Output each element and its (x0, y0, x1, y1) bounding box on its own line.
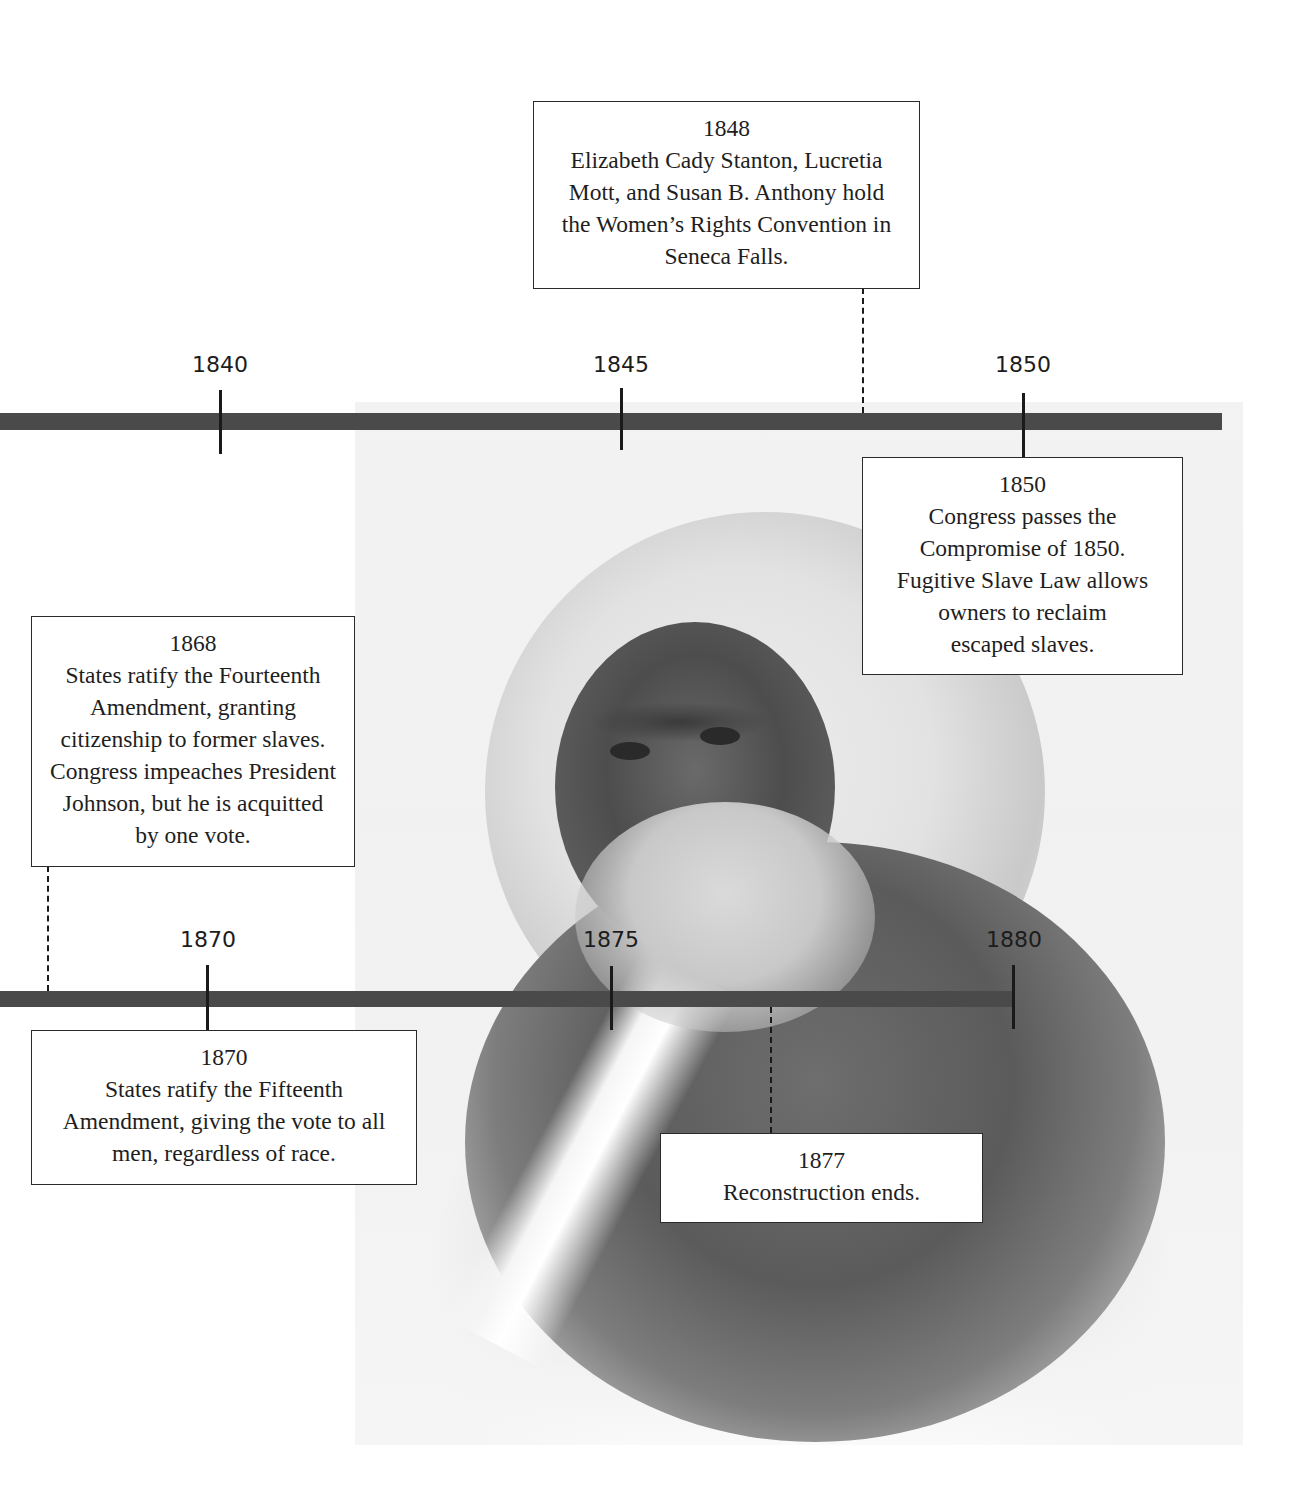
portrait-eye-right (700, 727, 740, 745)
tick-label-1875: 1875 (583, 927, 639, 952)
tick-1880 (1012, 965, 1015, 1029)
event-year: 1848 (542, 112, 911, 144)
tick-label-1870: 1870 (180, 927, 236, 952)
tick-1840 (219, 390, 222, 454)
connector-1848 (862, 288, 864, 413)
tick-label-1880: 1880 (986, 927, 1042, 952)
tick-label-1840: 1840 (192, 352, 248, 377)
tick-1870 (206, 965, 209, 1031)
event-year: 1877 (669, 1144, 974, 1176)
event-box-1850: 1850 Congress passes the Compromise of 1… (862, 457, 1183, 675)
event-year: 1850 (871, 468, 1174, 500)
portrait-brow (590, 702, 770, 742)
tick-label-1850: 1850 (995, 352, 1051, 377)
event-description: Reconstruction ends. (669, 1176, 974, 1208)
event-box-1868: 1868 States ratify the Fourteenth Amendm… (31, 616, 355, 867)
tick-1845 (620, 388, 623, 450)
event-description: Congress passes the Compromise of 1850. … (871, 500, 1174, 660)
connector-1877 (770, 1007, 772, 1133)
timeline-bar-top (0, 413, 1222, 430)
event-year: 1868 (40, 627, 346, 659)
tick-1850 (1022, 393, 1025, 458)
tick-label-1845: 1845 (593, 352, 649, 377)
connector-1868 (47, 866, 49, 991)
timeline-bar-bottom (0, 991, 1013, 1007)
event-box-1848: 1848 Elizabeth Cady Stanton, Lucretia Mo… (533, 101, 920, 289)
event-box-1877: 1877 Reconstruction ends. (660, 1133, 983, 1223)
event-year: 1870 (40, 1041, 408, 1073)
event-description: Elizabeth Cady Stanton, Lucretia Mott, a… (542, 144, 911, 272)
event-box-1870: 1870 States ratify the Fifteenth Amendme… (31, 1030, 417, 1185)
portrait-eye-left (610, 742, 650, 760)
tick-1875 (610, 966, 613, 1030)
event-description: States ratify the Fifteenth Amendment, g… (40, 1073, 408, 1169)
event-description: States ratify the Fourteenth Amendment, … (40, 659, 346, 851)
